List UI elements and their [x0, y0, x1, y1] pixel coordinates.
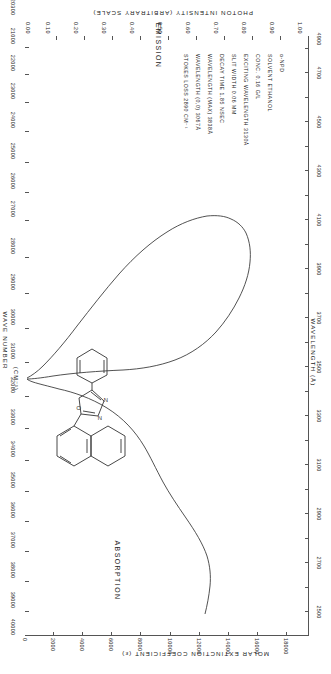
parameter-row: CONC. 0.16 G/L [255, 54, 261, 100]
parameter-row: SLIT WIDTH 0.06 MM [231, 54, 237, 115]
parameter-row: STOKES LOSS 2890 CM⁻¹ [183, 54, 189, 129]
atom-label-o: O [76, 405, 81, 411]
parameter-row: α-NPD [279, 54, 285, 72]
emission-label: EMISSION [155, 23, 162, 68]
parameter-row: WAVELENGTH (MAX) 3838Å [207, 54, 213, 134]
spectrum-figure: MOLAR EXTINCTION COEFFICIENT (ε) 18000 1… [0, 0, 331, 674]
parameter-row: EXCITING WAVELENGTH 3130Å [243, 54, 249, 146]
parameter-row: DECAY TIME 1.85 NSEC [219, 54, 225, 124]
parameter-row: SOLVENT ETHANOL [267, 54, 273, 112]
absorption-label: ABSORPTION [114, 541, 121, 601]
spectrum-figure-rotated: MOLAR EXTINCTION COEFFICIENT (ε) 18000 1… [0, 0, 331, 674]
emission-curve [27, 216, 250, 379]
spectra-curves [0, 0, 331, 674]
atom-label-n2: N [104, 397, 108, 403]
atom-label-n1: N [98, 415, 102, 421]
parameter-row: WAVELENGTH (0,0) 3067Å [195, 54, 201, 130]
molecule-structure: N N O [51, 368, 145, 478]
